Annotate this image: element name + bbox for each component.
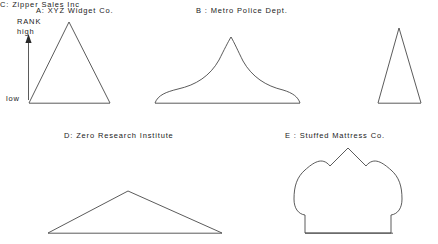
rank-distribution-figure: RANK high low A: XYZ Widget Co. B : Metr… <box>0 0 438 244</box>
shape-b-metro-police <box>155 37 300 103</box>
shape-a-xyz-widget <box>29 22 110 103</box>
profile-b <box>155 37 300 103</box>
profile-d <box>48 191 222 233</box>
profile-c <box>378 28 421 103</box>
shape-e-stuffed-mattress <box>294 148 402 233</box>
shape-d-zero-research <box>48 191 222 233</box>
up-arrow-icon <box>25 34 31 100</box>
shape-c-zipper-sales <box>378 28 421 103</box>
profile-a <box>29 22 110 103</box>
plot-canvas <box>0 0 438 244</box>
profile-e <box>294 148 402 233</box>
